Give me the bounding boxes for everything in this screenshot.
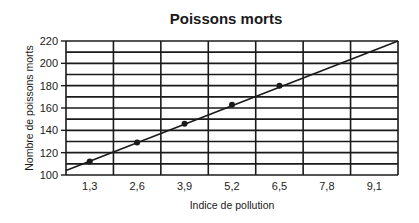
x-tick-label: 1,3 [82, 180, 97, 192]
y-tick-label: 200 [40, 57, 58, 69]
x-tick-label: 9,1 [367, 180, 382, 192]
y-tick-label: 140 [40, 124, 58, 136]
x-tick-label: 2,6 [129, 180, 144, 192]
y-tick-label: 120 [40, 147, 58, 159]
x-axis-ticks: 1,32,63,95,26,57,89,1 [82, 180, 382, 192]
data-point [182, 121, 188, 127]
x-tick-label: 5,2 [224, 180, 239, 192]
x-axis-title: Indice de pollution [190, 199, 275, 211]
x-tick-label: 3,9 [177, 180, 192, 192]
chart-title: Poissons morts [170, 10, 283, 27]
x-tick-label: 6,5 [272, 180, 287, 192]
y-tick-label: 160 [40, 102, 58, 114]
data-point [276, 83, 282, 89]
data-point [134, 140, 140, 146]
y-tick-label: 220 [40, 35, 58, 47]
chart-container: Poissons morts 100120140160180200220 1,3… [0, 0, 419, 223]
data-point [87, 159, 93, 165]
y-tick-label: 180 [40, 80, 58, 92]
data-point [229, 102, 235, 108]
y-axis-title: Nombre de poissons morts [23, 45, 35, 170]
x-tick-label: 7,8 [319, 180, 334, 192]
data-series [66, 41, 398, 171]
y-tick-label: 100 [40, 169, 58, 181]
y-axis-ticks: 100120140160180200220 [40, 35, 66, 181]
